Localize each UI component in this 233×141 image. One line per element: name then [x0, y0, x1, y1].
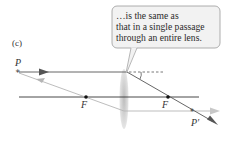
callout-line: through an entire lens.	[116, 32, 220, 43]
callout-text: …is the same as that in a single passage…	[116, 10, 220, 43]
image-star-icon: *	[190, 108, 194, 117]
arrow-icon	[210, 108, 220, 115]
lens	[120, 69, 129, 129]
callout-line: …is the same as	[116, 10, 220, 21]
panel-label: (c)	[12, 38, 22, 48]
label-focal-left: F	[80, 99, 88, 110]
arrow-icon	[39, 69, 49, 76]
object-star-icon: *	[16, 68, 21, 78]
arrow-icon	[207, 116, 218, 126]
label-image-point: P′	[190, 117, 200, 128]
label-object-point: P	[14, 57, 21, 68]
label-focal-right: F	[161, 99, 169, 110]
angle-arc	[140, 72, 141, 79]
callout-line: that in a single passage	[116, 21, 220, 32]
